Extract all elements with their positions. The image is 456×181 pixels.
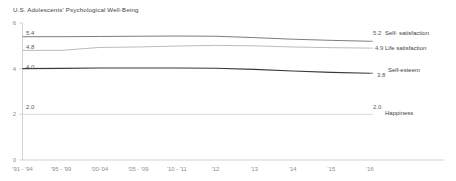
y-tick-label-4: 4 [4,66,16,72]
start-value-happiness: 2.0 [26,104,34,110]
x-tick-label-5: '12 [199,166,233,172]
series-lines-group [23,36,371,114]
x-tick-label-9: '16 [353,166,387,172]
x-tick-label-6: '13 [237,166,271,172]
start-value-self-satisfaction: 5.4 [26,30,34,36]
end-value-happiness: 2.0 [373,104,381,110]
series-line-life-satisfaction [23,45,371,50]
x-tick-label-1: '95 - '99 [44,166,78,172]
series-label-life-satisfaction: Life satisfaction [385,45,426,51]
y-tick-label-2: 2 [4,111,16,117]
end-value-life-satisfaction: 4.9 [375,45,383,51]
chart-container: U.S. Adolescents' Psychological Well-Bei… [0,0,456,181]
y-tick-label-0: 0 [4,157,16,163]
x-tick-label-2: '00-'04 [83,166,117,172]
x-tick-label-0: '91 - '94 [6,166,40,172]
x-tick-label-3: '05 - '09 [121,166,155,172]
series-label-happiness: Happiness [385,110,413,116]
start-value-self-esteem: 4.0 [26,64,34,70]
series-label-self-esteem: Self-esteem [388,67,420,73]
x-tick-label-8: '15 [314,166,348,172]
series-line-self-esteem [23,68,371,73]
x-tick-label-4: '10 - '11 [160,166,194,172]
y-tick-label-6: 6 [4,20,16,26]
end-value-self-satisfaction: 5.2 [373,30,381,36]
chart-plot-area [0,0,456,181]
end-value-self-esteem: 3.8 [377,72,385,78]
x-tick-label-7: '14 [276,166,310,172]
series-label-self-satisfaction: Self- satisfaction [385,30,429,36]
series-line-self-satisfaction [23,36,371,41]
start-value-life-satisfaction: 4.8 [26,44,34,50]
